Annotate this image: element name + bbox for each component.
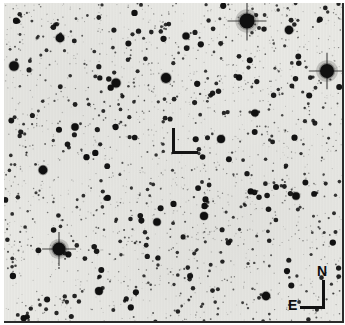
- compass-east-axis: [300, 306, 325, 309]
- compass-north-label: N: [317, 264, 327, 278]
- finder-chart: N E: [0, 0, 345, 325]
- compass-north-axis: [322, 280, 325, 309]
- compass-rose: N E: [288, 264, 340, 316]
- compass-east-label: E: [288, 298, 297, 312]
- plate-edge-right: [342, 3, 344, 323]
- plate-edge-bottom: [4, 321, 343, 323]
